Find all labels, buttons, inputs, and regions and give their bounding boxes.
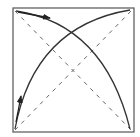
arrow-right-icon — [18, 12, 50, 18]
square-arcs-diagram — [0, 0, 140, 137]
